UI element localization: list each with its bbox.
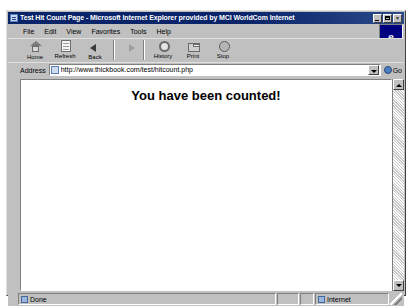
printer-icon [188,43,200,52]
page-icon [21,296,28,303]
menu-item-favorites[interactable]: Favorites [86,26,125,37]
window-controls: × [373,14,403,23]
toolbar-label-print: Print [187,52,199,60]
toolbar-button-print[interactable]: Print [178,39,208,60]
back-arrow-icon [88,40,103,53]
toolbar-button-home[interactable]: Home [20,39,50,61]
status-pane-secondary [277,293,299,305]
toolbar-button-back[interactable]: Back [80,39,110,61]
web-page-document: You have been counted! [20,79,392,291]
scroll-up-arrow-icon[interactable] [393,79,404,90]
toolbar-label-history: History [154,52,173,60]
menu-item-edit[interactable]: Edit [39,26,61,37]
content-area: You have been counted! [8,78,404,291]
scroll-down-arrow-icon[interactable] [393,280,404,291]
toolbar-button-stop[interactable]: Stop [208,39,238,60]
security-zone-label: Internet [327,295,351,304]
forward-arrow-icon [122,40,137,53]
window-icon [10,14,18,22]
navigation-toolbar: Home Refresh Back History Prin [8,38,404,62]
menu-item-help[interactable]: Help [152,26,176,37]
vertical-scrollbar[interactable] [392,79,404,291]
go-label: Go [393,67,402,74]
address-input[interactable]: http://www.thickbook.com/test/hitcount.p… [49,64,381,76]
status-pane-tertiary [300,293,314,305]
page-icon [51,66,59,74]
close-button[interactable]: × [393,14,402,23]
toolbar-separator [113,40,115,60]
window-resize-grip[interactable] [390,293,402,305]
address-label: Address [20,67,46,74]
refresh-page-icon [61,40,71,52]
scrollbar-track[interactable] [393,90,404,280]
history-icon [159,41,170,52]
security-zone-pane[interactable]: Internet [315,293,389,305]
status-bar: Done Internet [8,292,404,306]
address-url-text[interactable]: http://www.thickbook.com/test/hitcount.p… [61,65,368,75]
toolbar-label-stop: Stop [217,52,229,60]
address-bar: Address http://www.thickbook.com/test/hi… [8,62,404,77]
browser-window: Test Hit Count Page - Microsoft Internet… [6,10,406,296]
menu-item-file[interactable]: File [18,26,39,37]
desktop-background: Test Hit Count Page - Microsoft Internet… [0,0,412,307]
go-button[interactable]: Go [384,66,402,74]
menu-item-tools[interactable]: Tools [125,26,151,37]
window-title: Test Hit Count Page - Microsoft Internet… [20,13,373,23]
status-message-pane: Done [18,293,276,305]
stop-icon [219,41,230,52]
menu-bar: File Edit View Favorites Tools Help e [8,25,404,38]
toolbar-label-home: Home [27,53,43,61]
internet-zone-icon [318,296,325,303]
toolbar-separator [143,40,145,60]
toolbar-button-refresh[interactable]: Refresh [50,39,80,60]
toolbar-label-refresh: Refresh [54,52,75,60]
home-icon [28,40,43,53]
address-dropdown-button[interactable] [368,65,379,75]
toolbar-button-history[interactable]: History [148,39,178,60]
go-icon [384,66,392,74]
toolbar-label-back: Back [88,53,101,61]
maximize-button[interactable] [383,14,392,23]
toolbar-button-forward[interactable] [118,39,140,53]
status-message: Done [30,295,47,304]
minimize-button[interactable] [373,14,382,23]
title-bar[interactable]: Test Hit Count Page - Microsoft Internet… [8,12,404,24]
page-heading: You have been counted! [21,88,391,103]
menu-item-view[interactable]: View [61,26,86,37]
